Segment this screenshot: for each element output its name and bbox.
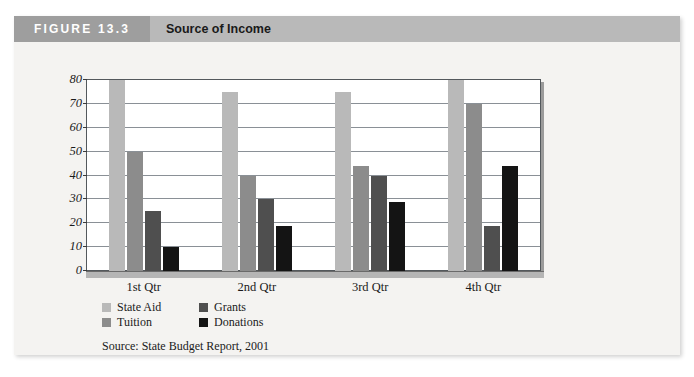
bar: [466, 104, 482, 271]
x-axis-label: 3rd Qtr: [352, 280, 388, 295]
chart-area: 01020304050607080 1st Qtr2nd Qtr3rd Qtr4…: [14, 42, 680, 355]
bar: [276, 226, 292, 271]
bar: [109, 80, 125, 271]
legend-label: State Aid: [117, 300, 161, 315]
legend-swatch-icon: [102, 318, 111, 327]
figure-number-band: FIGURE 13.3: [14, 16, 150, 42]
bar: [222, 92, 238, 271]
y-tick-label: 80: [56, 72, 82, 87]
figure-title: Source of Income: [166, 22, 271, 36]
legend-label: Grants: [214, 300, 246, 315]
figure-header: FIGURE 13.3 Source of Income: [14, 16, 680, 42]
bar: [335, 92, 351, 271]
y-tick-label: 30: [56, 191, 82, 206]
legend-row: State AidGrants: [102, 300, 332, 315]
bars-layer: [87, 80, 540, 271]
y-tick-label: 50: [56, 143, 82, 158]
bar: [240, 176, 256, 272]
legend-entry: State Aid: [102, 300, 199, 315]
figure-number-label: FIGURE 13.3: [34, 22, 130, 36]
figure-card: FIGURE 13.3 Source of Income 01020304050…: [14, 16, 680, 355]
x-axis-label: 1st Qtr: [126, 280, 160, 295]
bar: [389, 202, 405, 271]
legend-swatch-icon: [199, 303, 208, 312]
legend-entry: Grants: [199, 300, 296, 315]
bar: [448, 80, 464, 271]
y-tick-label: 70: [56, 95, 82, 110]
x-axis-band: [86, 271, 544, 278]
legend-swatch-icon: [102, 303, 111, 312]
bar: [371, 176, 387, 272]
y-tick-label: 40: [56, 167, 82, 182]
y-axis: 01020304050607080: [52, 79, 82, 271]
figure-title-band: Source of Income: [150, 16, 680, 42]
source-note: Source: State Budget Report, 2001: [102, 339, 269, 354]
legend-entry: Tuition: [102, 315, 199, 330]
bar: [502, 166, 518, 271]
y-tick-label: 0: [56, 263, 82, 278]
x-axis-label: 4th Qtr: [465, 280, 501, 295]
bar: [484, 226, 500, 271]
legend-label: Tuition: [117, 315, 152, 330]
bar: [163, 247, 179, 271]
y-tick-label: 60: [56, 119, 82, 134]
bar: [145, 211, 161, 271]
legend-swatch-icon: [199, 318, 208, 327]
bar: [353, 166, 369, 271]
legend-label: Donations: [214, 315, 263, 330]
legend-row: TuitionDonations: [102, 315, 332, 330]
bar: [127, 152, 143, 271]
chart-legend: State AidGrantsTuitionDonations: [102, 300, 332, 330]
y-tick-label: 10: [56, 239, 82, 254]
x-axis-label: 2nd Qtr: [238, 280, 277, 295]
y-tick-label: 20: [56, 215, 82, 230]
bar: [258, 199, 274, 271]
legend-entry: Donations: [199, 315, 296, 330]
